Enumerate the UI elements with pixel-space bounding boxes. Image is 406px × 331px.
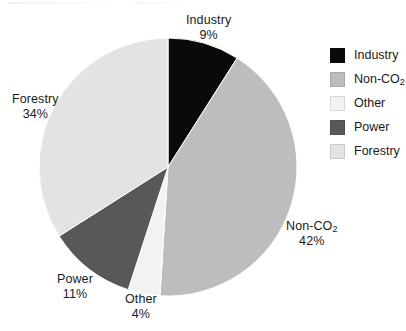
legend-item-industry[interactable]: Industry (330, 48, 405, 63)
legend-item-forestry[interactable]: Forestry (330, 144, 405, 159)
slice-label-power-name: Power (57, 272, 93, 287)
subscript-2: 2 (400, 77, 405, 87)
slice-label-non-co2-value: 42% (286, 234, 338, 249)
legend-item-non-co[interactable]: Non-CO2 (330, 72, 405, 87)
legend-item-other[interactable]: Other (330, 96, 405, 111)
slice-label-forestry-value: 34% (12, 107, 59, 122)
legend-swatch-icon (330, 96, 345, 111)
slice-label-forestry-name: Forestry (12, 92, 59, 107)
legend-swatch-icon (330, 72, 345, 87)
legend-item-label: Industry (354, 48, 398, 63)
pie-slice-group (39, 38, 297, 296)
slice-label-industry-name: Industry (186, 13, 231, 28)
legend-item-power[interactable]: Power (330, 120, 405, 135)
legend-item-label: Non-CO2 (354, 72, 405, 87)
legend-swatch-icon (330, 144, 345, 159)
chart-canvas: Industry 9% Non-CO2 42% Forestry 34% Pow… (0, 0, 406, 331)
legend-swatch-icon (330, 120, 345, 135)
slice-label-power: Power 11% (57, 272, 93, 301)
subscript-2: 2 (332, 224, 337, 234)
slice-label-forestry: Forestry 34% (12, 92, 59, 121)
slice-label-industry-value: 9% (186, 28, 231, 43)
slice-label-non-co2-name: Non-CO2 (286, 219, 338, 234)
slice-label-other-name: Other (125, 292, 157, 307)
slice-label-other: Other 4% (125, 292, 157, 321)
legend-item-label: Power (354, 120, 389, 135)
legend-item-label: Other (354, 96, 385, 111)
legend-swatch-icon (330, 48, 345, 63)
slice-label-industry: Industry 9% (186, 13, 231, 42)
chart-legend: IndustryNon-CO2OtherPowerForestry (330, 48, 405, 159)
slice-label-power-value: 11% (57, 287, 93, 302)
legend-item-label: Forestry (354, 144, 400, 159)
slice-label-non-co2: Non-CO2 42% (286, 219, 338, 248)
slice-label-other-value: 4% (125, 307, 157, 322)
